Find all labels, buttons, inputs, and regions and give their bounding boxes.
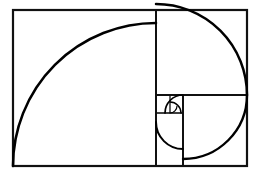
fibonacci-spiral-canvas: [0, 0, 259, 177]
fibonacci-spiral-figure: [0, 0, 259, 177]
